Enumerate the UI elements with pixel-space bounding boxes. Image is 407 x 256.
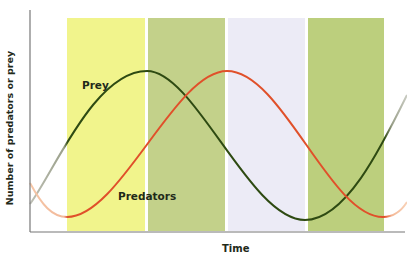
- band-phase-4: [308, 18, 384, 231]
- prey-label: Prey: [82, 79, 109, 91]
- y-axis-title: Number of predators or prey: [4, 50, 15, 205]
- predators-label: Predators: [118, 190, 176, 202]
- x-axis-title: Time: [222, 243, 250, 254]
- phase-bands: [67, 18, 384, 231]
- predator-prey-chart: Prey Predators Time Number of predators …: [0, 0, 407, 256]
